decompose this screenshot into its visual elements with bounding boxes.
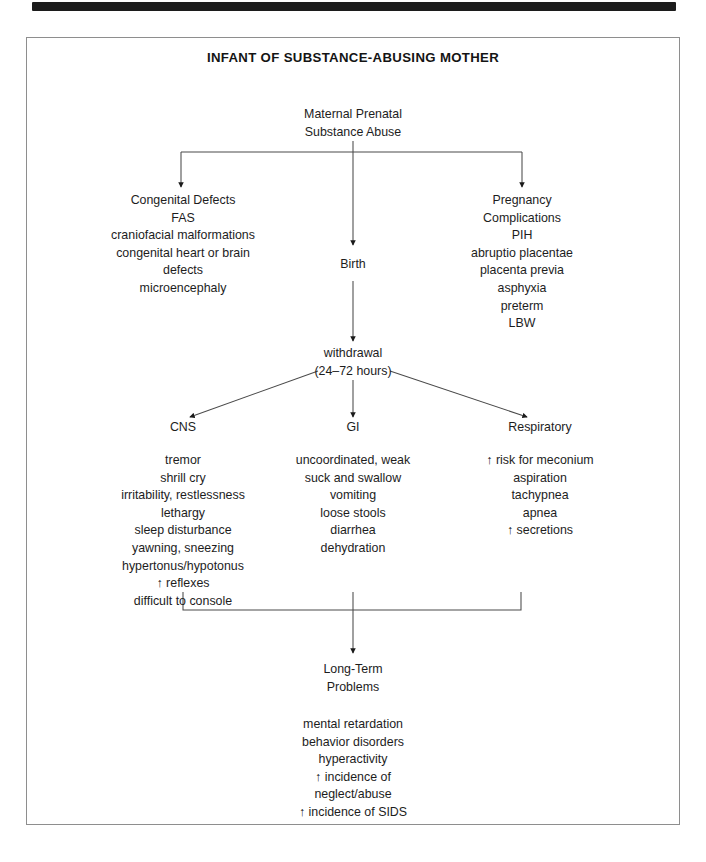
gi-line-5: diarrhea <box>273 522 433 540</box>
cns-line-5: sleep disturbance <box>73 522 293 540</box>
longterm-line-1: mental retardation <box>263 716 443 734</box>
gi-line-1: uncoordinated, weak <box>273 452 433 470</box>
node-longterm-problems-list: mental retardation behavior disorders hy… <box>263 716 443 822</box>
longterm-header-line-1: Long-Term <box>273 661 433 679</box>
respiratory-line-4: apnea <box>458 505 622 523</box>
cns-line-3: irritability, restlessness <box>73 487 293 505</box>
cns-line-4: lethargy <box>73 505 293 523</box>
longterm-line-3: hyperactivity <box>263 751 443 769</box>
diagram-page: INFANT OF SUBSTANCE-ABUSING MOTHER <box>0 0 706 862</box>
respiratory-header-label: Respiratory <box>488 419 592 437</box>
gi-line-4: loose stools <box>273 505 433 523</box>
pregnancy-line-5: placenta previa <box>432 262 612 280</box>
node-birth: Birth <box>303 256 403 274</box>
cns-header-label: CNS <box>143 419 223 437</box>
node-maternal-prenatal-substance-abuse: Maternal Prenatal Substance Abuse <box>253 106 453 141</box>
longterm-header-line-2: Problems <box>273 679 433 697</box>
cns-line-1: tremor <box>73 452 293 470</box>
root-line-1: Maternal Prenatal <box>253 106 453 124</box>
congenital-line-2: FAS <box>63 210 303 228</box>
node-respiratory-symptom-list: ↑ risk for meconium aspiration tachypnea… <box>458 452 622 540</box>
node-withdrawal: withdrawal (24–72 hours) <box>273 345 433 380</box>
pregnancy-line-1: Pregnancy <box>432 192 612 210</box>
withdrawal-line-2: (24–72 hours) <box>273 363 433 381</box>
cns-line-6: yawning, sneezing <box>73 540 293 558</box>
node-respiratory-header: Respiratory <box>488 419 592 437</box>
node-pregnancy-complications: Pregnancy Complications PIH abruptio pla… <box>432 192 612 333</box>
node-congenital-defects: Congenital Defects FAS craniofacial malf… <box>63 192 303 298</box>
birth-label: Birth <box>303 256 403 274</box>
congenital-line-4: congenital heart or brain <box>63 245 303 263</box>
node-longterm-problems-header: Long-Term Problems <box>273 661 433 696</box>
gi-line-6: dehydration <box>273 540 433 558</box>
node-gi-symptom-list: uncoordinated, weak suck and swallow vom… <box>273 452 433 558</box>
cns-line-8: ↑ reflexes <box>73 575 293 593</box>
gi-line-2: suck and swallow <box>273 470 433 488</box>
gi-header-label: GI <box>313 419 393 437</box>
top-black-bar <box>32 2 676 11</box>
pregnancy-line-8: LBW <box>432 315 612 333</box>
cns-line-2: shrill cry <box>73 470 293 488</box>
cns-line-9: difficult to console <box>73 593 293 611</box>
node-cns-symptom-list: tremor shrill cry irritability, restless… <box>73 452 293 610</box>
congenital-line-3: craniofacial malformations <box>63 227 303 245</box>
pregnancy-line-2: Complications <box>432 210 612 228</box>
longterm-line-2: behavior disorders <box>263 734 443 752</box>
cns-line-7: hypertonus/hypotonus <box>73 558 293 576</box>
page-title: INFANT OF SUBSTANCE-ABUSING MOTHER <box>0 50 706 65</box>
longterm-line-4: ↑ incidence of <box>263 769 443 787</box>
pregnancy-line-3: PIH <box>432 227 612 245</box>
root-line-2: Substance Abuse <box>253 124 453 142</box>
node-gi-header: GI <box>313 419 393 437</box>
respiratory-line-2: aspiration <box>458 470 622 488</box>
congenital-line-1: Congenital Defects <box>63 192 303 210</box>
longterm-line-5: neglect/abuse <box>263 786 443 804</box>
respiratory-line-5: ↑ secretions <box>458 522 622 540</box>
congenital-line-5: defects <box>63 262 303 280</box>
congenital-line-6: microencephaly <box>63 280 303 298</box>
longterm-line-6: ↑ incidence of SIDS <box>263 804 443 822</box>
respiratory-line-1: ↑ risk for meconium <box>458 452 622 470</box>
withdrawal-line-1: withdrawal <box>273 345 433 363</box>
gi-line-3: vomiting <box>273 487 433 505</box>
pregnancy-line-4: abruptio placentae <box>432 245 612 263</box>
pregnancy-line-7: preterm <box>432 298 612 316</box>
pregnancy-line-6: asphyxia <box>432 280 612 298</box>
node-cns-header: CNS <box>143 419 223 437</box>
respiratory-line-3: tachypnea <box>458 487 622 505</box>
